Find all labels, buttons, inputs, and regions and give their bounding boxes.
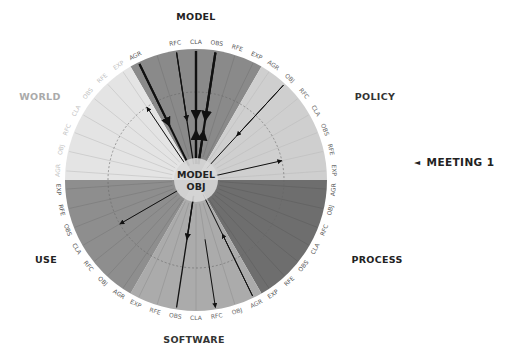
category-label-process: PROCESS bbox=[351, 254, 402, 265]
tick-label-software-exp: EXP bbox=[129, 298, 143, 310]
tick-label-policy-exp: EXP bbox=[331, 164, 339, 176]
tick-label-policy-obj: OBJ bbox=[283, 72, 296, 85]
meeting-legend[interactable]: ◄ MEETING 1 bbox=[414, 156, 494, 168]
tick-label-use-obj: OBJ bbox=[96, 275, 109, 288]
hub-label-line2: OBJ bbox=[187, 181, 206, 192]
category-label-software: SOFTWARE bbox=[163, 334, 225, 345]
category-label-model: MODEL bbox=[176, 11, 215, 22]
meeting-label: MEETING 1 bbox=[427, 156, 495, 168]
tick-label-policy-cla: CLA bbox=[310, 104, 322, 118]
tick-label-model-rfc: RFC bbox=[169, 38, 182, 47]
tick-label-model-rfe: RFE bbox=[231, 42, 244, 52]
tick-label-world-obs: OBS bbox=[81, 86, 94, 100]
tick-label-world-cla: CLA bbox=[70, 103, 82, 117]
tick-label-world-rfe: RFE bbox=[95, 71, 108, 84]
tick-label-software-cla: CLA bbox=[190, 314, 203, 321]
tick-label-world-exp: EXP bbox=[112, 59, 126, 71]
tick-label-policy-rfe: RFE bbox=[327, 143, 336, 156]
tick-label-process-obj: OBJ bbox=[325, 204, 335, 216]
category-label-world: WORLD bbox=[19, 91, 60, 102]
tick-label-model-cla: CLA bbox=[190, 38, 203, 45]
tick-label-model-obs: OBS bbox=[210, 38, 224, 47]
tick-label-software-agr: AGR bbox=[249, 297, 264, 309]
tick-label-world-obj: OBJ bbox=[56, 143, 66, 155]
tick-label-model-exp: EXP bbox=[250, 50, 264, 62]
center-hub bbox=[174, 158, 218, 202]
meeting-wheel-diagram: MODEL OBJ AGRRFCCLAOBSRFEEXPAGROBJRFCCLA… bbox=[0, 0, 516, 364]
category-label-use: USE bbox=[35, 254, 57, 265]
tick-label-model-agr: AGR bbox=[128, 49, 143, 61]
tick-label-software-obj: OBJ bbox=[231, 306, 244, 317]
tick-label-use-obs: OBS bbox=[63, 223, 74, 237]
tick-label-use-exp: EXP bbox=[55, 184, 63, 196]
tick-label-process-agr: AGR bbox=[329, 183, 337, 196]
tick-label-use-rfe: RFE bbox=[58, 204, 67, 217]
tick-label-policy-agr: AGR bbox=[266, 58, 281, 71]
tick-label-world-agr: AGR bbox=[54, 164, 62, 177]
tick-label-policy-obs: OBS bbox=[320, 122, 331, 136]
hub-label-line1: MODEL bbox=[177, 169, 215, 180]
tick-label-software-rfc: RFC bbox=[210, 311, 223, 320]
tick-label-process-rfc: RFC bbox=[318, 223, 329, 237]
tick-label-world-rfc: RFC bbox=[61, 123, 72, 137]
category-label-policy: POLICY bbox=[355, 91, 395, 102]
left-triangle-icon: ◄ bbox=[414, 158, 421, 167]
tick-label-software-obs: OBS bbox=[169, 311, 183, 320]
tick-label-policy-rfc: RFC bbox=[298, 86, 311, 100]
tick-label-software-rfe: RFE bbox=[149, 306, 162, 316]
